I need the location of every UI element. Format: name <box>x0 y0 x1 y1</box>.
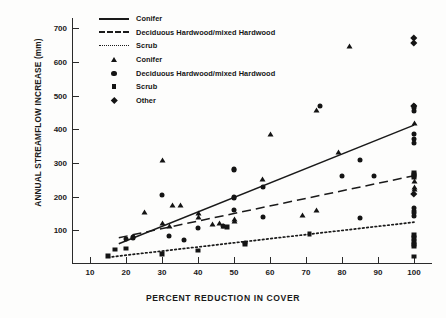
data-point <box>259 176 266 183</box>
data-point <box>241 240 248 247</box>
circle-marker-icon <box>231 195 236 200</box>
data-point <box>357 157 364 164</box>
square-marker-icon <box>124 246 129 251</box>
data-point <box>195 214 202 221</box>
data-point <box>195 247 202 254</box>
circle-marker-icon <box>260 214 265 219</box>
solid-line-glyph <box>99 18 129 20</box>
square-marker-icon <box>412 175 417 180</box>
square-marker-icon <box>224 225 229 230</box>
data-point <box>335 149 342 156</box>
circle-marker-icon <box>123 236 128 241</box>
data-point <box>177 201 184 208</box>
circle-marker-icon <box>131 236 136 241</box>
data-point <box>159 156 166 163</box>
data-point <box>195 224 202 231</box>
legend-item: Scrub <box>92 80 322 94</box>
circle-marker-icon <box>357 158 362 163</box>
triangle-marker-icon <box>141 209 147 214</box>
triangle-marker-icon <box>231 218 237 223</box>
circle-marker-icon <box>92 71 136 76</box>
data-point <box>209 221 216 228</box>
data-point <box>306 231 313 238</box>
x-axis-title: PERCENT REDUCTION IN COVER <box>0 293 446 303</box>
circle-marker-icon <box>260 185 265 190</box>
triangle-marker-icon <box>166 223 172 228</box>
legend-label: Scrub <box>136 41 157 50</box>
data-point <box>169 202 176 209</box>
diamond-marker-glyph <box>111 97 117 103</box>
legend-item: Scrub <box>92 39 322 53</box>
data-point <box>166 232 173 239</box>
square-marker-icon <box>92 84 136 89</box>
diamond-marker-icon <box>411 191 417 197</box>
data-point <box>123 235 130 242</box>
circle-marker-icon <box>159 192 164 197</box>
circle-marker-icon <box>372 173 377 178</box>
legend-item: Conifer <box>92 53 322 67</box>
x-tick-label: 20 <box>122 268 131 277</box>
diamond-marker-icon <box>92 98 136 103</box>
circle-marker-glyph <box>111 71 116 76</box>
dotted-line-glyph <box>99 45 129 46</box>
legend-item: Conifer <box>92 12 322 26</box>
data-point <box>141 208 148 215</box>
data-point <box>180 237 187 244</box>
triangle-marker-icon <box>299 213 305 218</box>
figure-scatter-plot: ANNUAL STREAMFLOW INCREASE (mm) PERCENT … <box>0 0 446 318</box>
data-point <box>166 222 173 229</box>
x-tick-label: 60 <box>266 268 275 277</box>
circle-marker-icon <box>231 207 236 212</box>
triangle-marker-icon <box>411 121 417 126</box>
data-point <box>159 219 166 226</box>
y-tick-label: 600 <box>54 57 67 66</box>
square-marker-icon <box>196 248 201 253</box>
y-tick-label: 400 <box>54 125 67 134</box>
x-tick-label: 70 <box>302 268 311 277</box>
triangle-marker-icon <box>260 177 266 182</box>
square-marker-icon <box>242 241 247 246</box>
square-marker-icon <box>160 251 165 256</box>
legend-item: Deciduous Hardwood/mixed Hardwood <box>92 26 322 40</box>
circle-marker-icon <box>411 140 416 145</box>
legend-label: Other <box>136 96 156 105</box>
triangle-marker-icon <box>346 43 352 48</box>
circle-marker-icon <box>411 214 416 219</box>
circle-marker-icon <box>231 168 236 173</box>
circle-marker-icon <box>181 237 186 242</box>
data-point <box>357 214 364 221</box>
data-point <box>371 172 378 179</box>
triangle-marker-icon <box>92 57 136 62</box>
y-tick-label: 200 <box>54 192 67 201</box>
dashed-line-glyph <box>99 31 129 33</box>
triangle-marker-glyph <box>111 57 117 62</box>
triangle-marker-icon <box>159 220 165 225</box>
legend-item: Other <box>92 94 322 108</box>
triangle-marker-icon <box>314 208 320 213</box>
data-point <box>411 103 418 110</box>
data-point <box>411 213 418 220</box>
y-axis-title: ANNUAL STREAMFLOW INCREASE (mm) <box>34 23 43 223</box>
y-tick-label: 700 <box>54 24 67 33</box>
y-tick-label: 100 <box>54 226 67 235</box>
circle-marker-icon <box>357 215 362 220</box>
data-point <box>231 217 238 224</box>
fit-line-dotted <box>108 222 414 257</box>
diamond-marker-icon <box>411 103 417 109</box>
x-tick-label: 100 <box>407 268 420 277</box>
data-point <box>346 42 353 49</box>
triangle-marker-icon <box>159 157 165 162</box>
data-point <box>112 246 119 253</box>
square-marker-icon <box>113 247 118 252</box>
data-point <box>259 213 266 220</box>
triangle-marker-icon <box>267 132 273 137</box>
triangle-marker-icon <box>177 202 183 207</box>
data-point <box>411 139 418 146</box>
data-point <box>105 252 112 259</box>
data-point <box>411 39 418 46</box>
square-marker-icon <box>412 244 417 249</box>
data-point <box>411 190 418 197</box>
data-point <box>299 212 306 219</box>
data-point <box>411 253 418 260</box>
legend-label: Conifer <box>136 55 162 64</box>
